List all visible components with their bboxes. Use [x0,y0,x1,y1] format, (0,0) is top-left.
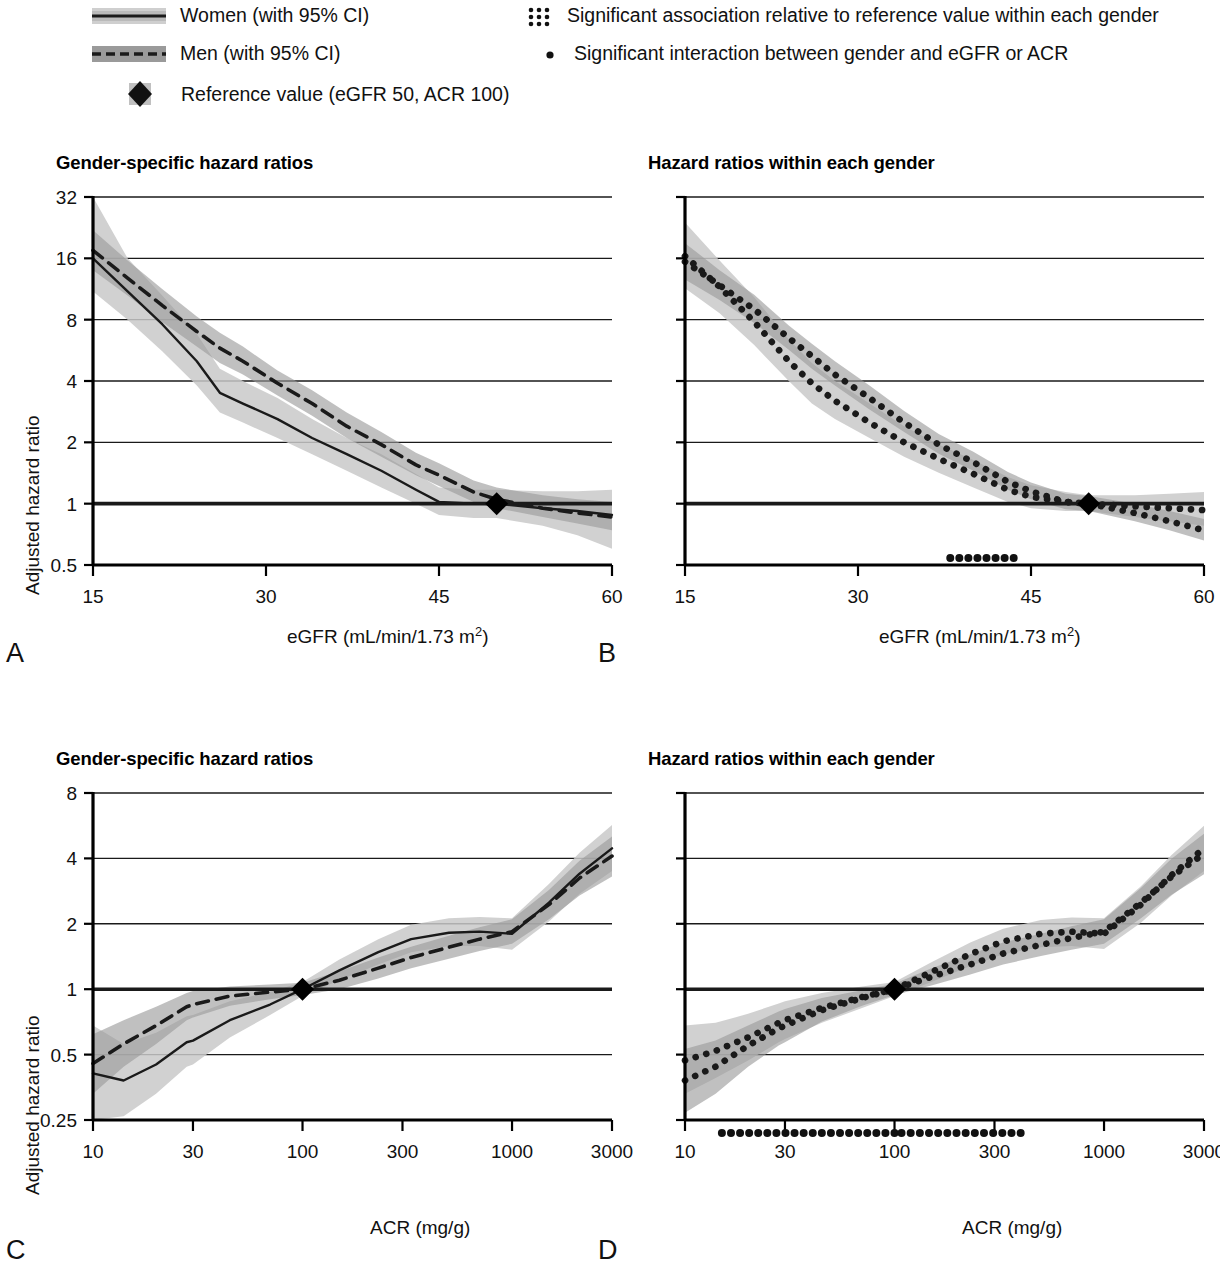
svg-text:2: 2 [66,432,77,453]
svg-text:1000: 1000 [1083,1141,1125,1162]
legend-item-significant-interaction: Significant interaction between gender a… [543,42,1068,65]
svg-text:30: 30 [182,1141,203,1162]
legend-item-women: Women (with 95% CI) [92,4,369,27]
svg-text:4: 4 [66,371,77,392]
svg-text:45: 45 [1020,586,1041,607]
svg-text:8: 8 [66,310,77,331]
svg-text:0.5: 0.5 [51,555,77,576]
svg-text:30: 30 [255,586,276,607]
panel-b-title: Hazard ratios within each gender [648,152,935,174]
svg-text:0.5: 0.5 [51,1045,77,1066]
svg-text:8: 8 [66,783,77,804]
svg-text:30: 30 [774,1141,795,1162]
reference-diamond-icon [125,79,155,109]
panel-a-title: Gender-specific hazard ratios [56,152,313,174]
svg-text:0.25: 0.25 [40,1110,77,1131]
svg-text:15: 15 [82,586,103,607]
legend-item-reference: Reference value (eGFR 50, ACR 100) [125,79,509,109]
panel-a-x-axis-label-text: eGFR (mL/min/1.73 m2) [287,626,488,647]
svg-text:32: 32 [56,187,77,208]
svg-text:300: 300 [979,1141,1011,1162]
panel-c-x-axis-label: ACR (mg/g) [370,1217,470,1239]
legend-label-men: Men (with 95% CI) [180,42,340,65]
svg-text:15: 15 [674,586,695,607]
panel-a-x-axis-label: eGFR (mL/min/1.73 m2) [287,624,488,648]
panel-a-letter: A [6,638,24,669]
svg-text:4: 4 [66,848,77,869]
legend-item-men: Men (with 95% CI) [92,42,340,65]
single-dot-icon [543,45,557,63]
panel-d-letter: D [598,1235,618,1261]
panel-d-x-axis-label-text: ACR (mg/g) [962,1217,1062,1238]
panel-c-plot: 0.250.51248103010030010003000 [0,776,620,1256]
svg-text:300: 300 [387,1141,419,1162]
legend-label-significant-interaction: Significant interaction between gender a… [574,42,1068,65]
panel-c-letter: C [6,1235,26,1261]
figure-legend: Women (with 95% CI) Men (with 95% CI) Re… [0,0,1220,120]
panel-d-title: Hazard ratios within each gender [648,748,935,770]
legend-item-significant-association: Significant association relative to refe… [527,4,1159,27]
svg-text:100: 100 [287,1141,319,1162]
panel-b: Hazard ratios within each gender 1530456… [592,140,1220,690]
svg-text:1000: 1000 [491,1141,533,1162]
svg-text:1: 1 [66,979,77,1000]
men-line-swatch-icon [92,43,166,65]
svg-text:10: 10 [82,1141,103,1162]
panel-b-x-axis-label-text: eGFR (mL/min/1.73 m2) [879,626,1080,647]
panel-b-letter: B [598,638,616,669]
svg-text:100: 100 [879,1141,911,1162]
panel-a-plot: 0.51248163215304560 [0,180,620,660]
svg-text:3000: 3000 [1183,1141,1220,1162]
panel-c-title: Gender-specific hazard ratios [56,748,313,770]
legend-label-significant-association: Significant association relative to refe… [567,4,1159,27]
svg-text:2: 2 [66,914,77,935]
svg-text:16: 16 [56,248,77,269]
panel-c: Gender-specific hazard ratios Adjusted h… [0,690,620,1260]
svg-text:45: 45 [428,586,449,607]
svg-text:30: 30 [847,586,868,607]
panel-d-plot: 103010030010003000 [592,776,1212,1256]
svg-text:1: 1 [66,494,77,515]
panel-d-x-axis-label: ACR (mg/g) [962,1217,1062,1239]
panel-d: Hazard ratios within each gender 1030100… [592,690,1220,1260]
svg-text:60: 60 [1193,586,1214,607]
panel-c-x-axis-label-text: ACR (mg/g) [370,1217,470,1238]
panel-b-x-axis-label: eGFR (mL/min/1.73 m2) [879,624,1080,648]
women-line-swatch-icon [92,5,166,27]
legend-label-women: Women (with 95% CI) [180,4,369,27]
legend-label-reference: Reference value (eGFR 50, ACR 100) [181,83,509,106]
panel-a: Gender-specific hazard ratios Adjusted h… [0,140,620,690]
panel-b-plot: 15304560 [592,180,1212,660]
svg-text:10: 10 [674,1141,695,1162]
dotted-block-icon [527,5,553,27]
